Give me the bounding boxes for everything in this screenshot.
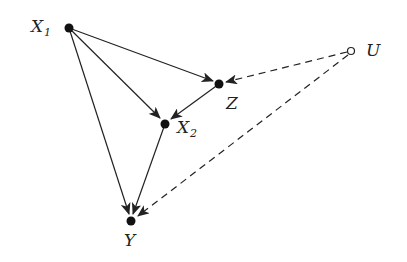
label-z: Z [225,93,239,113]
label-x1: X1 [29,16,51,39]
label-y: Y [124,230,137,250]
edge-x1-y [69,28,129,214]
causal-diagram: X1 Z U X2 Y [0,0,407,262]
edge-x1-x2 [69,28,160,118]
edge-x1-z [69,28,213,81]
node-x2 [161,120,170,129]
edge-z-x2 [171,84,219,119]
node-z [215,80,224,89]
edge-u-z [226,52,347,82]
node-y [127,217,136,226]
label-u: U [366,40,381,60]
edge-x2-y [133,124,165,214]
label-x2: X2 [175,117,197,140]
node-u [348,48,355,55]
node-x1 [65,24,74,33]
edge-u-y [138,55,348,216]
